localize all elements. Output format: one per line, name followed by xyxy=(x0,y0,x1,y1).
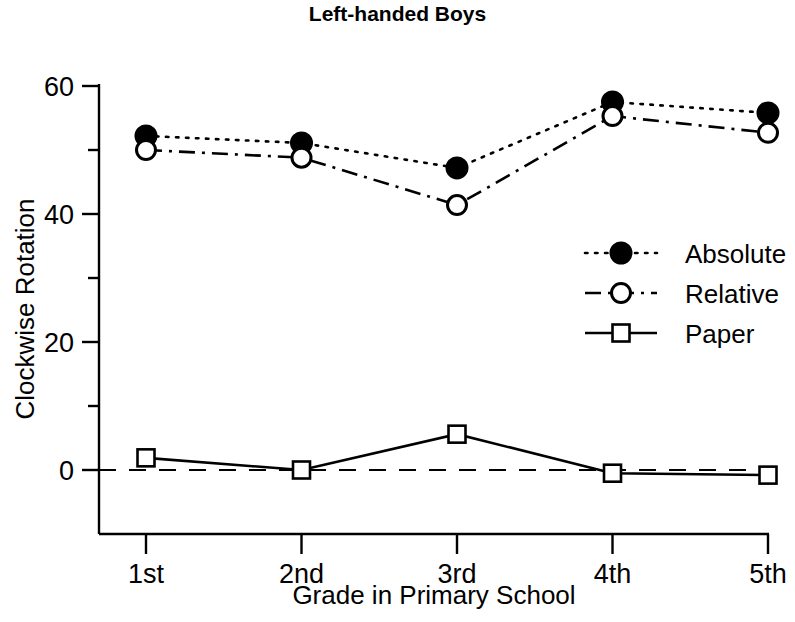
data-point-marker xyxy=(603,107,622,126)
chart-legend: AbsoluteRelativePaper xyxy=(585,239,786,349)
x-axis-ticks xyxy=(146,534,768,554)
legend-item-absolute[interactable]: Absolute xyxy=(585,239,786,269)
data-series-paper xyxy=(138,426,777,484)
y-axis-title: Clockwise Rotation xyxy=(10,198,40,419)
data-point-marker xyxy=(447,157,468,178)
data-point-marker xyxy=(758,102,779,123)
data-point-marker xyxy=(612,284,631,303)
data-point-marker xyxy=(760,467,777,484)
data-point-marker xyxy=(293,462,310,479)
legend-label: Paper xyxy=(685,319,755,349)
data-point-marker xyxy=(138,449,155,466)
data-point-marker xyxy=(604,465,621,482)
y-axis-ticks xyxy=(82,86,99,470)
x-tick-label: 1st xyxy=(128,559,165,589)
x-axis-title: Grade in Primary School xyxy=(292,580,575,610)
x-tick-label: 4th xyxy=(594,559,632,589)
data-point-marker xyxy=(448,196,467,215)
y-tick-label: 40 xyxy=(44,200,74,230)
data-series-layer xyxy=(136,92,779,484)
y-tick-label: 20 xyxy=(44,328,74,358)
y-axis-tick-labels: 0204060 xyxy=(44,72,74,486)
data-point-marker xyxy=(292,148,311,167)
legend-item-paper[interactable]: Paper xyxy=(585,319,755,349)
data-point-marker xyxy=(613,325,630,342)
x-tick-label: 5th xyxy=(749,559,787,589)
data-series-absolute xyxy=(136,92,779,179)
data-point-marker xyxy=(759,123,778,142)
data-point-marker xyxy=(137,141,156,160)
chart-figure: Left-handed Boys 0204060 1st2nd3rd4th5th… xyxy=(0,0,795,622)
legend-label: Relative xyxy=(685,279,779,309)
line-chart-plot: 0204060 1st2nd3rd4th5th Grade in Primary… xyxy=(0,0,795,622)
legend-label: Absolute xyxy=(685,239,786,269)
data-point-marker xyxy=(611,243,632,264)
axis-lines xyxy=(99,84,769,534)
legend-item-relative[interactable]: Relative xyxy=(585,279,779,309)
y-tick-label: 0 xyxy=(59,456,74,486)
y-tick-label: 60 xyxy=(44,72,74,102)
data-point-marker xyxy=(449,426,466,443)
